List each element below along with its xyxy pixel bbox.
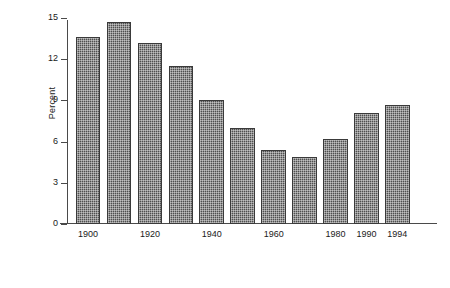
y-axis-tick <box>61 100 67 101</box>
bar <box>169 66 194 224</box>
bar <box>107 22 132 224</box>
bar <box>76 37 101 224</box>
bar <box>261 150 286 224</box>
y-axis-tick-label: 12 <box>18 54 58 63</box>
bar <box>354 113 379 224</box>
x-axis-tick-label: 1960 <box>254 229 294 239</box>
y-axis-tick-label: 0 <box>18 219 58 228</box>
x-axis-tick-label: 1940 <box>192 229 232 239</box>
x-axis-tick-label: 1900 <box>68 229 108 239</box>
y-axis-tick-label: 6 <box>18 137 58 146</box>
y-axis-tick-label: 9 <box>18 95 58 104</box>
y-axis-tick <box>61 18 67 19</box>
x-axis-tick-label: 1994 <box>377 229 417 239</box>
bar <box>199 100 224 224</box>
y-axis-tick <box>61 59 67 60</box>
y-axis-tick-label: 3 <box>18 178 58 187</box>
y-axis-tick-label: 15 <box>18 13 58 22</box>
bar <box>138 43 163 224</box>
x-axis-tick-label: 1920 <box>130 229 170 239</box>
bar <box>230 128 255 224</box>
y-axis-tick <box>61 183 67 184</box>
y-axis-tick <box>61 142 67 143</box>
bar <box>323 139 348 224</box>
y-axis-tick <box>61 224 67 225</box>
bar-chart: Percent 03691215 19001920194019601980199… <box>0 0 450 288</box>
bars-group <box>68 18 436 224</box>
bar <box>292 157 317 224</box>
bar <box>385 105 410 224</box>
